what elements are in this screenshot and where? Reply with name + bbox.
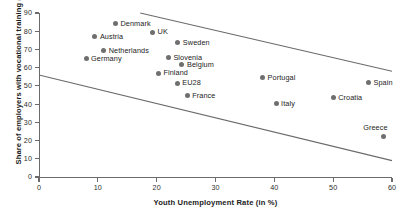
x-tick-40 [274, 178, 275, 182]
data-point-label: UK [158, 28, 168, 35]
x-tick-label-10: 10 [86, 184, 110, 191]
y-tick-90 [35, 12, 39, 13]
y-tick-70 [35, 49, 39, 50]
data-point-label: Italy [281, 100, 295, 107]
y-tick-40 [35, 104, 39, 105]
x-tick-60 [391, 178, 392, 182]
y-tick-80 [35, 31, 39, 32]
x-tick-label-60: 60 [380, 184, 403, 191]
marker-icon [156, 71, 161, 76]
marker-icon [166, 55, 171, 60]
x-tick-label-30: 30 [204, 184, 228, 191]
y-tick-60 [35, 67, 39, 68]
y-axis-line [39, 13, 40, 177]
marker-icon [331, 95, 336, 100]
marker-icon [175, 81, 180, 86]
marker-icon [92, 34, 97, 39]
x-axis-title: Youth Unemployment Rate (in %) [39, 198, 392, 207]
data-point-label: Germany [91, 55, 122, 62]
data-point-label: EU28 [182, 79, 201, 86]
scatter-chart: 0102030405060708090 0102030405060 Denmar… [0, 0, 403, 219]
marker-icon [101, 48, 106, 53]
marker-icon [84, 56, 89, 61]
marker-icon [113, 21, 118, 26]
y-tick-label-0: 0 [10, 173, 32, 180]
data-point-label: Greece [363, 124, 387, 131]
y-tick-10 [35, 158, 39, 159]
data-point-label: Netherlands [109, 47, 149, 54]
marker-icon [175, 40, 180, 45]
marker-icon [260, 75, 265, 80]
x-tick-0 [38, 178, 39, 182]
y-tick-20 [35, 140, 39, 141]
data-point-label: Denmark [120, 20, 150, 27]
data-point-label: Belgium [187, 61, 214, 68]
x-tick-label-50: 50 [321, 184, 345, 191]
y-axis-title: Share of employers with vocational train… [14, 0, 23, 165]
y-tick-30 [35, 122, 39, 123]
data-point-label: Croatia [338, 94, 362, 101]
marker-icon [185, 93, 190, 98]
lower-bound-line [39, 75, 392, 161]
marker-icon [150, 30, 155, 35]
data-point-label: Sweden [183, 39, 210, 46]
x-tick-label-20: 20 [145, 184, 169, 191]
x-tick-50 [333, 178, 334, 182]
marker-icon [179, 62, 184, 67]
data-point-label: France [192, 92, 215, 99]
x-tick-10 [97, 178, 98, 182]
x-tick-20 [156, 178, 157, 182]
marker-icon [274, 101, 279, 106]
marker-icon [366, 80, 371, 85]
x-tick-label-40: 40 [262, 184, 286, 191]
data-point-label: Spain [373, 79, 392, 86]
x-tick-label-0: 0 [27, 184, 51, 191]
y-tick-50 [35, 85, 39, 86]
data-point-label: Austria [100, 33, 123, 40]
marker-icon [381, 134, 386, 139]
x-tick-30 [215, 178, 216, 182]
data-point-label: Portugal [268, 74, 296, 81]
data-point-label: Finland [163, 69, 188, 76]
